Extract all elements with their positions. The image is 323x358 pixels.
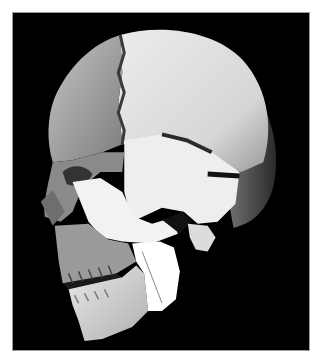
frontal-bone (48, 35, 124, 162)
skull-render (13, 13, 309, 350)
mastoid-process (188, 224, 216, 252)
image-frame (12, 12, 310, 351)
